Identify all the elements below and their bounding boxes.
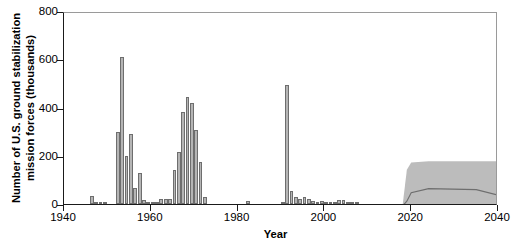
bar xyxy=(190,103,194,204)
y-axis-title-line1: Number of U.S. ground stabilization xyxy=(10,12,24,202)
bar xyxy=(294,197,298,204)
bar xyxy=(342,200,346,204)
plot-area xyxy=(63,12,497,205)
bar xyxy=(324,202,328,204)
bar xyxy=(129,134,133,204)
bar xyxy=(177,152,181,204)
bar xyxy=(311,201,315,204)
bar xyxy=(125,156,129,204)
bar xyxy=(146,202,150,204)
bar xyxy=(173,170,177,204)
bar xyxy=(246,201,250,204)
bar xyxy=(142,200,146,204)
bar xyxy=(181,112,185,204)
bar xyxy=(307,199,311,204)
bar xyxy=(281,202,285,204)
bar xyxy=(151,202,155,204)
bar xyxy=(99,202,103,204)
bar-group xyxy=(64,13,496,204)
x-axis-tick-label: 1980 xyxy=(224,212,250,224)
bar xyxy=(159,199,163,204)
bar xyxy=(90,196,94,204)
bar xyxy=(120,57,124,204)
x-axis-tick-label: 2000 xyxy=(311,212,337,224)
bar xyxy=(133,188,137,204)
y-axis-tick-label: 400 xyxy=(39,103,58,115)
bar xyxy=(155,202,159,204)
bar xyxy=(303,197,307,204)
bar xyxy=(164,199,168,204)
bar xyxy=(333,202,337,204)
y-axis-title-line2: mission forces (thousands) xyxy=(23,12,37,202)
bar xyxy=(320,201,324,204)
y-axis-tick-label: 600 xyxy=(39,54,58,66)
bar xyxy=(316,202,320,204)
bar xyxy=(138,173,142,204)
bar xyxy=(199,162,203,204)
bar xyxy=(203,197,207,204)
bar xyxy=(116,132,120,204)
bar xyxy=(355,202,359,204)
chart-figure: Number of U.S. ground stabilization miss… xyxy=(0,0,517,246)
y-axis-tick-label: 200 xyxy=(39,151,58,163)
bar xyxy=(337,200,341,204)
x-axis-tick-label: 1960 xyxy=(137,212,163,224)
bar xyxy=(298,199,302,204)
bar xyxy=(346,202,350,204)
x-axis-title: Year xyxy=(264,228,288,240)
bar xyxy=(103,202,107,204)
bar xyxy=(186,97,190,204)
x-axis-tick-label: 2040 xyxy=(484,212,510,224)
x-axis-tick-label: 2020 xyxy=(397,212,423,224)
x-axis-tick-label: 1940 xyxy=(50,212,76,224)
bar xyxy=(329,202,333,204)
bar xyxy=(350,202,354,204)
bar xyxy=(194,130,198,204)
bar xyxy=(290,191,294,204)
bar xyxy=(168,199,172,204)
y-axis-tick-label: 800 xyxy=(39,6,58,18)
bar xyxy=(285,85,289,204)
bar xyxy=(94,202,98,204)
x-axis-title-wrap: Year xyxy=(0,228,517,240)
y-axis-tick-label: 0 xyxy=(52,199,58,211)
